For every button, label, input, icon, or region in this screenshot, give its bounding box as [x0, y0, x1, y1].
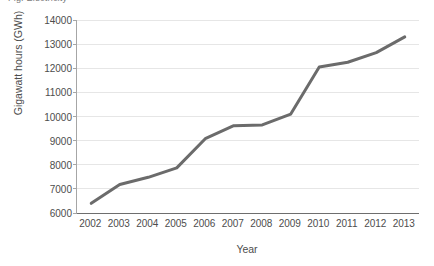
- x-tick-label: 2010: [307, 218, 329, 229]
- y-axis-tick-labels: 6000700080009000100001100012000130001400…: [26, 20, 72, 213]
- y-tick-label: 6000: [26, 208, 72, 219]
- y-tick-label: 11000: [26, 87, 72, 98]
- series-line-gigawatt-hours: [91, 37, 405, 203]
- y-tick-label: 8000: [26, 159, 72, 170]
- x-tick-label: 2005: [165, 218, 187, 229]
- y-tick-label: 9000: [26, 135, 72, 146]
- x-tick-label: 2007: [222, 218, 244, 229]
- y-tick-label: 12000: [26, 63, 72, 74]
- x-axis-title: Year: [76, 243, 418, 255]
- x-tick-label: 2004: [136, 218, 158, 229]
- x-tick-label: 2003: [108, 218, 130, 229]
- x-tick-label: 2002: [79, 218, 101, 229]
- x-tick-label: 2006: [193, 218, 215, 229]
- x-tick-label: 2011: [336, 218, 358, 229]
- chart-figure: Fig. Electricity Gigawatt hours (GWh) 60…: [0, 0, 434, 266]
- y-tick-label: 13000: [26, 39, 72, 50]
- series-layer: [77, 20, 419, 213]
- y-tick-label: 14000: [26, 15, 72, 26]
- x-axis-tick-labels: 2002200320042005200620072008200920102011…: [76, 218, 418, 234]
- cropped-title-strip: Fig. Electricity: [0, 0, 434, 9]
- y-tick-label: 7000: [26, 183, 72, 194]
- x-tick-label: 2009: [279, 218, 301, 229]
- x-tick-label: 2008: [250, 218, 272, 229]
- plot-area: [76, 20, 419, 214]
- x-tick-label: 2013: [393, 218, 415, 229]
- y-tick-label: 10000: [26, 111, 72, 122]
- x-tick-label: 2012: [364, 218, 386, 229]
